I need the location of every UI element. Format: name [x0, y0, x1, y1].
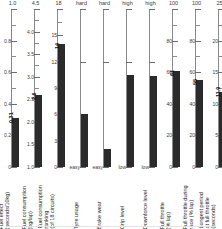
axis-tick	[34, 77, 40, 78]
gauge-top-label: 1.0	[1, 0, 24, 6]
bar-value-label: 61	[169, 69, 175, 75]
bar	[173, 71, 180, 167]
circuit-characteristics-chart: 1.01.00.80.60.40.200.31Fuel effect (seco…	[0, 0, 222, 229]
axis-tick-minor	[11, 25, 16, 26]
axis-tick-label: 15	[212, 70, 218, 75]
bar	[127, 75, 134, 167]
axis-tick-label: 0.6	[4, 70, 11, 75]
axis-tick-minor	[11, 56, 16, 57]
axis-tick	[34, 54, 40, 55]
axis-tick	[195, 167, 201, 168]
axis-tick-minor	[34, 43, 39, 44]
gauge-5: hardeasyBrake wear	[93, 0, 116, 229]
axis-tick-label: 10	[212, 102, 218, 107]
axis-tick-label: 15	[51, 33, 57, 38]
axis-tick-minor	[11, 88, 16, 89]
axis-tick-label: 4.0	[27, 30, 34, 35]
axis-tick	[34, 167, 40, 168]
axis-tick	[103, 62, 109, 63]
axis-tick	[172, 41, 178, 42]
gauge-caption-text: Downforce level	[142, 190, 148, 229]
axis-tick	[218, 72, 222, 73]
axis-tick	[11, 9, 17, 10]
axis-tick	[80, 62, 86, 63]
gauge-plot-area: 181512963014	[47, 9, 70, 167]
axis-tick	[218, 41, 222, 42]
axis-tick-label: 0.2	[4, 133, 11, 138]
gauge-plot-area: low	[139, 9, 162, 167]
gauge-10: 25252015105011.9Longest period at full t…	[208, 0, 222, 229]
axis-tick	[11, 41, 17, 42]
bar	[12, 118, 19, 167]
axis-tick	[57, 9, 63, 10]
bar-value-label: 2.6	[31, 92, 37, 100]
axis-tick-minor	[34, 88, 39, 89]
bar	[58, 44, 65, 167]
axis-tick-label: 20	[166, 133, 172, 138]
gauge-plot-area: easy	[93, 9, 116, 167]
axis-tick-label: 12	[51, 60, 57, 65]
gauge-top-label: 100	[185, 0, 208, 6]
axis-tick	[172, 9, 178, 10]
axis-tick	[149, 62, 155, 63]
gauge-caption-text: Longest period at full throttle (seconds…	[198, 193, 217, 229]
axis-tick	[80, 9, 86, 10]
bar-value-label: 55	[192, 79, 198, 85]
axis-tick-label: 0.4	[4, 102, 11, 107]
axis-tick-minor	[195, 25, 200, 26]
axis-tick	[57, 35, 63, 36]
axis-tick	[149, 167, 155, 168]
axis-tick-label: 80	[189, 39, 195, 44]
axis-tick-minor	[172, 56, 177, 57]
bar-value-label: 14	[54, 43, 60, 49]
axis-tick-label: 1.5	[27, 142, 34, 147]
gauge-caption: Brake wear	[93, 170, 116, 229]
bar	[219, 92, 222, 167]
axis-tick	[126, 62, 132, 63]
gauge-7: highlowDownforce level	[139, 0, 162, 229]
gauge-caption-text: Tyre usage	[73, 202, 79, 229]
gauge-caption-text: Fuel consumption (kg/lap)	[21, 186, 33, 229]
bar-value-label: 0.31	[8, 112, 14, 123]
gauge-top-label: hard	[70, 0, 93, 6]
axis-tick	[172, 167, 178, 168]
axis-tick-minor	[34, 20, 39, 21]
gauge-6: highlowGrip level	[116, 0, 139, 229]
axis-tick-label: 20	[189, 133, 195, 138]
axis-tick-label: 2.0	[27, 120, 34, 125]
axis-tick-label: 9	[54, 86, 57, 91]
gauge-caption: Longest period at full throttle (seconds…	[208, 170, 222, 229]
axis-tick	[34, 32, 40, 33]
axis-tick	[195, 41, 201, 42]
axis-tick-label: 40	[166, 102, 172, 107]
axis-tick-label: 3.5	[27, 52, 34, 57]
bar	[150, 76, 157, 167]
axis-tick	[11, 167, 17, 168]
axis-tick-minor	[34, 65, 39, 66]
axis-tick	[34, 9, 40, 10]
gauge-plot-area: 252015105011.9	[208, 9, 222, 167]
axis-tick	[195, 9, 201, 10]
gauge-row: 1.01.00.80.60.40.200.31Fuel effect (seco…	[0, 0, 222, 229]
gauge-plot-area: 10080604020061	[162, 9, 185, 167]
axis-tick-label: 0.8	[4, 39, 11, 44]
axis-tick	[103, 167, 109, 168]
axis-tick-minor	[218, 25, 222, 26]
axis-tick	[11, 72, 17, 73]
gauge-caption-text: Fuel effect (seconds/10kg)	[0, 191, 10, 229]
axis-tick	[11, 104, 17, 105]
gauge-caption: Fuel consumption ranking (of 18 circuits…	[47, 170, 70, 229]
gauge-plot-area: 1.00.80.60.40.200.31	[1, 9, 24, 167]
gauge-3: 18181512963014Fuel consumption ranking (…	[47, 0, 70, 229]
bottom-divider	[6, 226, 216, 227]
gauge-4: hardeasyTyre usage	[70, 0, 93, 229]
gauge-caption-text: Fuel consumption ranking (of 18 circuits…	[37, 186, 56, 229]
axis-tick-label: 5	[215, 133, 218, 138]
axis-tick	[149, 9, 155, 10]
axis-tick-label: 20	[212, 39, 218, 44]
gauge-top-label: high	[116, 0, 139, 6]
gauge-top-label: hard	[93, 0, 116, 6]
bar	[81, 114, 88, 167]
axis-tick-label: 6	[54, 112, 57, 117]
gauge-top-label: 25	[208, 0, 222, 6]
